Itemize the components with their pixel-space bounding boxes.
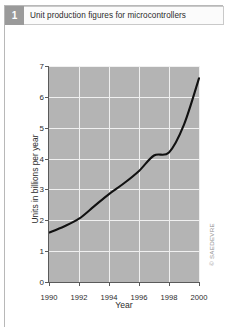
y-tick-mark: [45, 220, 48, 221]
gridline-vertical: [199, 66, 200, 282]
y-tick-value: 7: [30, 62, 44, 71]
x-tick-mark: [199, 283, 200, 286]
chart-region: 01234567 199019921994199619982000 Units …: [5, 25, 224, 327]
x-tick-mark: [79, 283, 80, 286]
y-tick-mark: [45, 251, 48, 252]
watermark-credit: © SAEDEVRE: [208, 206, 215, 266]
x-tick-mark: [169, 283, 170, 286]
figure-title-box: Unit production figures for microcontrol…: [24, 6, 224, 25]
x-tick-mark: [139, 283, 140, 286]
x-tick-mark: [49, 283, 50, 286]
y-tick-mark: [45, 97, 48, 98]
series-line-unit-production: [49, 78, 199, 232]
y-tick-mark: [45, 128, 48, 129]
figure-title-bar: 1 Unit production figures for microcontr…: [5, 6, 224, 25]
x-axis-line: [48, 282, 200, 283]
y-tick-mark: [45, 189, 48, 190]
y-axis-title: Units in billions per year: [30, 99, 40, 259]
y-axis-line: [48, 66, 49, 283]
figure-container: 1 Unit production figures for microcontr…: [4, 5, 223, 327]
y-tick-mark: [45, 282, 48, 283]
x-axis-title: Year: [49, 300, 199, 310]
y-tick-mark: [45, 159, 48, 160]
x-tick-mark: [109, 283, 110, 286]
data-curve: [49, 66, 199, 282]
y-tick-mark: [45, 66, 48, 67]
figure-title-text: Unit production figures for microcontrol…: [30, 11, 186, 20]
figure-number-badge: 1: [5, 6, 24, 25]
